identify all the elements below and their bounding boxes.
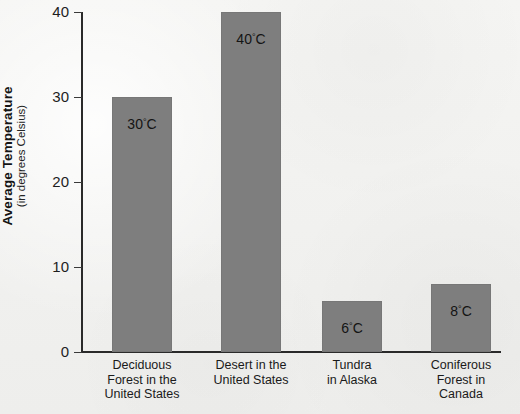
bar-2: 40°C bbox=[221, 12, 281, 352]
y-tick-mark bbox=[74, 267, 82, 268]
y-tick-label: 40 bbox=[35, 4, 69, 19]
y-tick-mark bbox=[74, 182, 82, 183]
bar-1: 30°C bbox=[112, 97, 172, 352]
category-label-1: DeciduousForest in theUnited States bbox=[87, 358, 197, 402]
bar-3: 6°C bbox=[322, 301, 382, 352]
category-label-line: Deciduous bbox=[87, 358, 197, 373]
y-axis-title: Average Temperature bbox=[0, 56, 15, 256]
bar-value-label: 8°C bbox=[431, 302, 491, 318]
category-label-line: United States bbox=[87, 387, 197, 402]
category-label-line: Desert in the bbox=[196, 358, 306, 373]
bar-value-label: 30°C bbox=[112, 115, 172, 131]
category-label-line: Forest in bbox=[406, 373, 516, 388]
y-tick-mark bbox=[74, 97, 82, 98]
category-label-line: Coniferous bbox=[406, 358, 516, 373]
y-axis-title-group: Average Temperature (in degrees Celsius) bbox=[0, 56, 42, 256]
y-tick-label: 10 bbox=[35, 259, 69, 274]
y-tick-label: 20 bbox=[35, 174, 69, 189]
category-label-line: in Alaska bbox=[297, 373, 407, 388]
y-axis-subtitle: (in degrees Celsius) bbox=[15, 56, 28, 256]
y-tick-label: 30 bbox=[35, 89, 69, 104]
category-label-line: Tundra bbox=[297, 358, 407, 373]
bar-chart-figure: Average Temperature (in degrees Celsius)… bbox=[0, 0, 520, 414]
category-label-4: ConiferousForest inCanada bbox=[406, 358, 516, 402]
bar-4: 8°C bbox=[431, 284, 491, 352]
y-tick-label: 0 bbox=[35, 344, 69, 359]
category-label-2: Desert in theUnited States bbox=[196, 358, 306, 387]
y-tick-mark bbox=[74, 352, 82, 353]
category-label-3: Tundrain Alaska bbox=[297, 358, 407, 387]
plot-area: 30°C40°C6°C8°C bbox=[83, 12, 501, 352]
bar-value-label: 6°C bbox=[322, 319, 382, 335]
category-label-line: United States bbox=[196, 373, 306, 388]
category-label-line: Canada bbox=[406, 387, 516, 402]
category-label-line: Forest in the bbox=[87, 373, 197, 388]
y-tick-mark bbox=[74, 12, 82, 13]
bar-value-label: 40°C bbox=[221, 30, 281, 46]
